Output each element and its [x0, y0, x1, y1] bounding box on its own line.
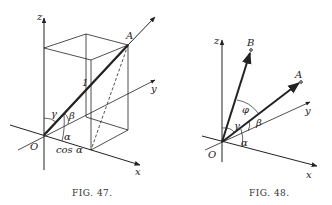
label-alpha: α: [64, 131, 71, 142]
caption-fig-47: FIG. 47.: [72, 188, 113, 198]
arc-beta: [64, 113, 69, 124]
label-origin: O: [208, 149, 216, 160]
arc-gamma: [222, 128, 234, 132]
label-z: z: [213, 35, 220, 46]
label-x: x: [306, 169, 312, 180]
label-length: 1: [82, 77, 88, 88]
label-y: y: [304, 105, 311, 116]
projection-dashed: [91, 45, 128, 150]
label-cos-alpha: cos α: [56, 144, 83, 155]
label-z: z: [36, 11, 43, 22]
label-point-A: A: [125, 30, 133, 41]
figure-48: [202, 40, 317, 166]
x-axis: [202, 136, 317, 166]
label-origin: O: [30, 141, 38, 152]
point-B-marker: [250, 49, 253, 52]
label-gamma: γ: [234, 120, 240, 131]
label-y: y: [150, 83, 157, 94]
label-phi: φ: [242, 104, 249, 115]
label-x: x: [135, 166, 141, 177]
box-edge: [86, 117, 128, 130]
diagram-canvas: z y x O A 1 α β γ cos α FIG. 47. z y x O…: [0, 0, 332, 205]
caption-fig-48: FIG. 48.: [249, 188, 290, 198]
label-beta: β: [68, 110, 75, 121]
label-gamma: γ: [51, 108, 57, 119]
label-point-B: B: [246, 37, 254, 48]
label-alpha: α: [241, 137, 248, 148]
label-beta: β: [255, 117, 262, 128]
box-edge: [91, 130, 128, 150]
point-A-marker: [300, 81, 303, 84]
label-point-A: A: [294, 69, 302, 80]
